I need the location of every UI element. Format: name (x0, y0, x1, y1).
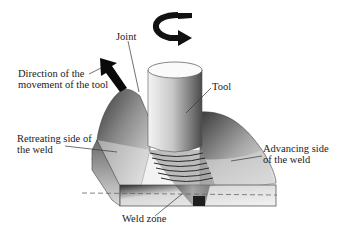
weld-root (193, 196, 205, 206)
tool-top (148, 62, 202, 78)
label-retreating-line2: the weld (17, 144, 92, 155)
fsw-diagram: Joint Tool Direction of the movement of … (0, 0, 345, 236)
rotation-arrow-icon (156, 13, 192, 46)
label-retreating-line1: Retreating side of (17, 133, 92, 144)
label-advancing-line1: Advancing side (263, 143, 329, 154)
label-joint: Joint (116, 31, 136, 42)
label-advancing-side: Advancing side of the weld (263, 143, 329, 165)
label-direction-line2: movement of the tool (18, 79, 108, 90)
label-direction-line1: Direction of the (18, 68, 108, 79)
label-weld-zone: Weld zone (122, 213, 166, 224)
label-retreating-side: Retreating side of the weld (17, 133, 92, 155)
label-advancing-line2: of the weld (263, 154, 329, 165)
tool-cylinder (148, 70, 202, 152)
label-tool: Tool (212, 81, 231, 92)
label-direction: Direction of the movement of the tool (18, 68, 108, 90)
diagram-canvas (0, 0, 345, 236)
